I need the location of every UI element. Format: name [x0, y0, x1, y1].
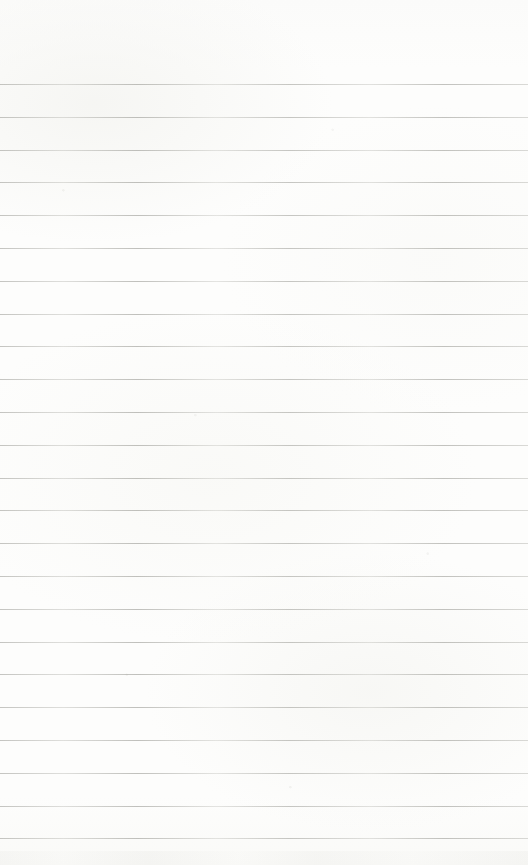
ruled-line	[0, 674, 528, 675]
ruled-line	[0, 215, 528, 216]
ruled-line	[0, 84, 528, 85]
ruled-line	[0, 740, 528, 741]
ruled-line	[0, 182, 528, 183]
ruled-line	[0, 412, 528, 413]
ruled-line	[0, 609, 528, 610]
ruled-line	[0, 281, 528, 282]
ruled-line	[0, 150, 528, 151]
ruled-line	[0, 478, 528, 479]
ruled-line	[0, 510, 528, 511]
ruled-line	[0, 576, 528, 577]
ruled-line	[0, 543, 528, 544]
ruled-line	[0, 117, 528, 118]
ruled-line	[0, 707, 528, 708]
ruled-line	[0, 314, 528, 315]
lined-paper-page	[0, 0, 528, 865]
ruled-line	[0, 838, 528, 839]
ruled-lines-container	[0, 0, 528, 865]
ruled-line	[0, 346, 528, 347]
ruled-line	[0, 642, 528, 643]
ruled-line	[0, 248, 528, 249]
ruled-line	[0, 445, 528, 446]
ruled-line	[0, 806, 528, 807]
ruled-line	[0, 773, 528, 774]
ruled-line	[0, 379, 528, 380]
